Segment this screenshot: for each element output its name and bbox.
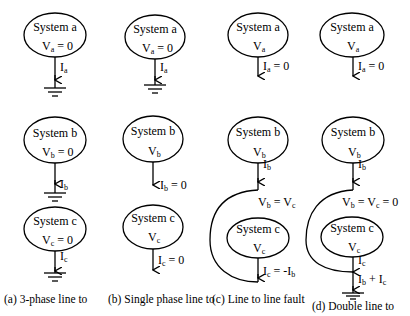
ground-current-label: Ib + Ic (358, 272, 387, 287)
ground-icon (44, 88, 66, 96)
system-name: System b (131, 124, 175, 138)
system-c-node: System c Vc = 0 Ic (24, 207, 86, 281)
voltage-label: Va (253, 39, 266, 54)
system-name: System a (330, 20, 374, 34)
voltage-label: Vc = 0 (42, 233, 73, 248)
system-b-node: System b Vb Ib = 0 (123, 116, 187, 193)
line-to-line-connection (210, 190, 258, 282)
current-label: Ia = 0 (358, 59, 384, 74)
current-label: Ia (160, 60, 168, 75)
ground-icon (44, 273, 66, 281)
panel-a: System a Va = 0 Ia System b Vb = 0 Ib Sy… (4, 13, 88, 306)
system-a-node: System a Va = 0 Ia (125, 15, 185, 93)
current-label: Ic = 0 (158, 253, 184, 268)
voltage-label: Va (347, 39, 360, 54)
system-b-node: System b Vb = 0 Ib (24, 117, 86, 201)
system-name: System b (33, 126, 77, 140)
panel-d: System a Va Ia = 0 System b Vb Ib Vb = V… (306, 13, 398, 313)
voltage-label: Va = 0 (42, 39, 73, 54)
system-name: System b (236, 125, 280, 139)
current-label: Ic (60, 249, 68, 264)
current-label: Ib (358, 157, 366, 172)
ground-icon (44, 193, 66, 201)
fault-diagram-canvas: System a Va = 0 Ia System b Vb = 0 Ib Sy… (0, 0, 410, 316)
system-name: System c (330, 221, 374, 235)
current-label: Ib (263, 157, 271, 172)
system-name: System a (133, 22, 177, 36)
system-name: System c (236, 222, 280, 236)
voltage-label: Vb = 0 (42, 145, 73, 160)
system-name: System c (131, 211, 175, 225)
current-label: Ia (60, 60, 68, 75)
current-label: Ib = 0 (160, 178, 187, 193)
system-a-node: System a Va Ia = 0 (228, 13, 289, 76)
system-c-node: System c Vc Ic = 0 (123, 205, 184, 270)
current-label: Ib (60, 177, 68, 192)
ground-icon (144, 85, 166, 93)
system-name: System a (33, 20, 77, 34)
panel-b: System a Va = 0 Ia System b Vb Ib = 0 Sy… (108, 15, 215, 306)
junction-label: Vb = Vc (258, 195, 296, 210)
system-name: System c (33, 214, 77, 228)
voltage-label: Vc (148, 230, 161, 245)
panel-caption: (b) Single phase line to (108, 293, 215, 306)
system-b-node: System b Vb Ib (322, 117, 384, 190)
system-b-node: System b Vb Ib (228, 117, 288, 190)
current-label: Ic = -Ib (263, 264, 295, 279)
system-a-node: System a Va = 0 Ia (24, 13, 86, 96)
system-name: System a (236, 20, 280, 34)
panel-c: System a Va Ia = 0 System b Vb Ib Vb = V… (210, 13, 305, 306)
ground-icon (342, 293, 364, 299)
panel-caption: (a) 3-phase line to (4, 293, 88, 306)
system-c-node: System c Vc Ic = -Ib (227, 218, 295, 282)
current-label: Ia = 0 (263, 59, 289, 74)
voltage-label: Vb (148, 144, 161, 159)
panel-caption: (c) Line to line fault (212, 293, 305, 306)
system-c-node: System c Vc Ic Ib + Ic (321, 217, 387, 299)
panel-caption: (d) Double line to (312, 300, 394, 313)
system-name: System b (331, 125, 375, 139)
system-a-node: System a Va Ia = 0 (320, 13, 384, 76)
junction-label: Vb = Vc = 0 (342, 195, 398, 210)
voltage-label: Vc (253, 241, 266, 256)
voltage-label: Va = 0 (142, 41, 173, 56)
